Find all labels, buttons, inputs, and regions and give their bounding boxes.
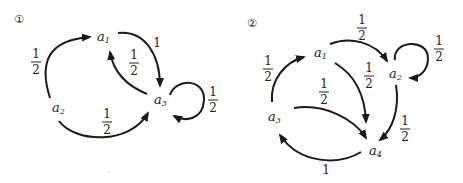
svg-text:a3: a3 [154, 92, 167, 108]
node-d2-a2: a2 [389, 66, 402, 82]
diagram-2-marker: ② [247, 17, 257, 30]
edge-d1-a3-a1 [110, 52, 147, 94]
edge-d2-a1-a4 [335, 63, 366, 122]
svg-text:2: 2 [320, 93, 328, 107]
svg-text:2: 2 [32, 63, 40, 77]
diagram-1-marker: ① [14, 13, 24, 26]
node-d2-a4: a4 [369, 143, 382, 159]
weight-d2-a3-a4: 1 2 [319, 77, 329, 107]
weight-d2-a1-a4: 1 2 [364, 61, 374, 91]
edge-d2-a2-a4 [380, 85, 397, 140]
node-d1-a3: a3 [154, 92, 167, 108]
svg-text:1: 1 [358, 13, 366, 27]
svg-text:a1: a1 [314, 45, 327, 61]
svg-text:1: 1 [264, 54, 272, 68]
svg-text:1: 1 [401, 114, 409, 128]
diagram-2: ② a1 a2 a3 a4 1 2 1 2 1 [247, 13, 444, 177]
svg-text:1: 1 [435, 34, 443, 48]
weight-d1-a3-a3: 1 2 [208, 85, 218, 115]
edge-d2-a3-a4 [294, 107, 366, 138]
weight-d1-a1-a3: 1 [153, 36, 161, 50]
svg-text:a2: a2 [52, 100, 65, 116]
diagram-1: ① a1 a2 a3 1 2 1 1 2 1 [14, 13, 218, 173]
weight-d1-a3-a1: 1 2 [129, 48, 139, 78]
weight-d2-a4-a3: 1 [322, 163, 330, 177]
weight-d1-a2-a1: 1 2 [31, 47, 41, 77]
edge-d2-a4-a3 [280, 135, 361, 160]
weight-d2-a2-a2: 1 2 [434, 34, 444, 64]
node-d2-a1: a1 [314, 45, 327, 61]
svg-text:2: 2 [365, 77, 373, 91]
weight-d2-a3-a1: 1 2 [263, 54, 273, 84]
node-d2-a3: a3 [268, 109, 281, 125]
node-d1-a1: a1 [97, 29, 110, 45]
edge-d1-a3-a3 [170, 83, 204, 119]
svg-text:2: 2 [130, 64, 138, 78]
edge-d2-a3-a1 [272, 57, 304, 102]
svg-text:2: 2 [103, 123, 111, 137]
svg-text:1: 1 [103, 107, 111, 121]
svg-text:1: 1 [130, 48, 138, 62]
svg-text:a4: a4 [369, 143, 382, 159]
svg-text:1: 1 [320, 77, 328, 91]
svg-text:2: 2 [401, 130, 409, 144]
svg-text:2: 2 [435, 50, 443, 64]
edge-d2-a1-a2 [330, 41, 387, 61]
svg-text:1: 1 [209, 85, 217, 99]
svg-text:a3: a3 [268, 109, 281, 125]
svg-text:2: 2 [358, 29, 366, 43]
weight-d2-a2-a4: 1 2 [400, 114, 410, 144]
stray-dot [108, 171, 109, 172]
edge-d1-a2-a1 [46, 37, 90, 98]
markov-diagrams: ① a1 a2 a3 1 2 1 1 2 1 [0, 0, 463, 183]
node-d1-a2: a2 [52, 100, 65, 116]
svg-text:1: 1 [32, 47, 40, 61]
svg-text:1: 1 [365, 61, 373, 75]
svg-text:2: 2 [209, 101, 217, 115]
svg-text:a1: a1 [97, 29, 110, 45]
weight-d2-a1-a2: 1 2 [357, 13, 367, 43]
svg-text:a2: a2 [389, 66, 402, 82]
weight-d1-a2-a3: 1 2 [102, 107, 112, 137]
svg-text:2: 2 [264, 70, 272, 84]
